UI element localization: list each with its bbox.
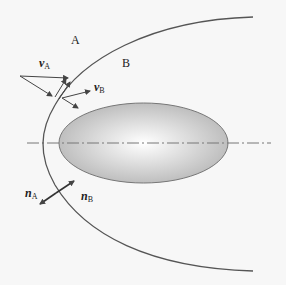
v-b-arrow-1 [62, 91, 90, 98]
v-a-subscript: A [44, 62, 50, 71]
n-b-subscript: B [88, 195, 93, 204]
v-a-arrow-2 [20, 76, 52, 96]
n-a-subscript: A [32, 192, 38, 201]
diagram-canvas: A B vA vB nA nB [0, 0, 286, 285]
v-b-subscript: B [99, 86, 104, 95]
v-b-label: vB [94, 81, 105, 95]
v-b-arrow-2 [62, 98, 78, 108]
v-a-arrow-1 [20, 76, 68, 78]
diagram-drawing [0, 0, 286, 285]
region-b-label: B [122, 57, 130, 69]
v-a-label: vA [39, 57, 50, 71]
normal-arrow-b [56, 181, 74, 193]
n-a-symbol: n [25, 186, 32, 200]
normal-arrow-a [40, 193, 56, 204]
n-b-symbol: n [81, 189, 88, 203]
tangent-arrow-1 [55, 79, 66, 97]
n-a-label: nA [25, 187, 37, 201]
region-a-label: A [71, 34, 80, 46]
n-b-label: nB [81, 190, 93, 204]
